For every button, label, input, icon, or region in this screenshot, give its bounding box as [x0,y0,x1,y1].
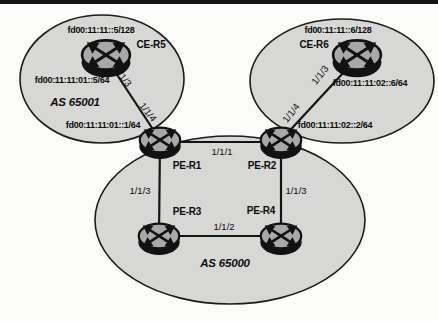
addr-net65001-r1: fd00:11:11:01::1/64 [66,121,140,130]
router-label-ce-r6: CE-R6 [299,40,328,50]
router-label-pe-r1: PE-R1 [173,161,201,171]
addr-net65002-r6: fd00:11:11:02::6/64 [333,79,407,88]
router-pe-r1-icon [139,128,180,159]
topology-canvas [0,0,438,321]
router-pe-r3-icon [138,224,179,255]
iface-link-pe1-pe2: 1/1/1 [211,147,232,157]
router-label-pe-r3: PE-R3 [173,207,201,217]
router-label-ce-r5: CE-R5 [136,40,165,50]
iface-link-pe2-pe4: 1/1/3 [285,186,306,196]
zone-label-as65001: AS 65001 [50,97,100,109]
router-pe-r4-icon [260,224,301,255]
router-label-pe-r2: PE-R2 [248,161,276,171]
addr-net65001-r5: fd00:11:11:01::5/64 [35,76,109,85]
iface-link-pe1-pe3: 1/1/3 [129,186,150,196]
addr-r5-loopback: fd00:11:11::5/128 [68,26,135,35]
addr-net65002-r2: fd00:11:11:02::2/64 [298,121,372,130]
router-ce-r6-icon [333,40,382,77]
figure-network-diagram: fd00:11:11::5/128 CE-R5 fd00:11:11:01::5… [0,0,438,321]
zone-as65000 [95,136,365,304]
router-pe-r2-icon [260,128,301,159]
addr-r6-loopback: fd00:11:11::6/128 [305,26,372,35]
zone-label-as65000: AS 65000 [200,258,250,270]
router-label-pe-r4: PE-R4 [247,206,275,216]
iface-link-pe3-pe4: 1/1/2 [213,222,234,232]
